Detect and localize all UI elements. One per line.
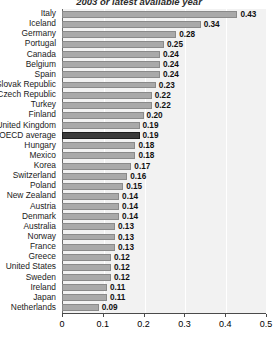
bar-value-label: 0.14 <box>122 192 138 201</box>
category-label: Mexico <box>29 151 56 160</box>
category-label: Greece <box>29 252 56 261</box>
bar-row: 0.43 <box>62 11 266 18</box>
bar-chart-figure: 2003 or latest available year ItalyIcela… <box>0 0 278 340</box>
category-label: Austria <box>30 202 56 211</box>
bar <box>62 234 115 241</box>
bar <box>62 244 115 251</box>
bar <box>62 284 107 291</box>
category-label: United States <box>6 262 56 271</box>
category-label: Japan <box>33 293 56 302</box>
x-axis-tick-label: 0.5 <box>246 319 278 329</box>
bar-value-label: 0.28 <box>179 30 195 39</box>
bar-value-label: 0.20 <box>147 111 163 120</box>
x-axis-tick <box>144 314 145 317</box>
category-label: France <box>30 242 56 251</box>
bar-series: 0.430.340.280.250.240.240.240.230.220.22… <box>62 9 266 313</box>
bar-value-label: 0.24 <box>163 70 179 79</box>
bar-row: 0.13 <box>62 234 266 241</box>
category-label: Sweden <box>26 273 56 282</box>
bar-value-label: 0.12 <box>114 263 130 272</box>
category-label: Korea <box>34 161 56 170</box>
x-axis-tick-label: 0 <box>42 319 82 329</box>
bar-row: 0.25 <box>62 41 266 48</box>
bar-value-label: 0.16 <box>130 172 146 181</box>
bar <box>62 112 144 119</box>
bar-value-label: 0.15 <box>126 182 142 191</box>
bar-value-label: 0.24 <box>163 60 179 69</box>
bar-value-label: 0.14 <box>122 212 138 221</box>
bar <box>62 163 131 170</box>
bar-value-label: 0.11 <box>110 283 125 292</box>
bar <box>62 132 140 139</box>
bar <box>62 173 127 180</box>
category-label: Hungary <box>24 141 56 150</box>
bar <box>62 92 152 99</box>
category-label: Czech Republic <box>0 90 56 99</box>
bar-value-label: 0.13 <box>118 233 134 242</box>
x-axis-tick-label: 0.2 <box>124 319 164 329</box>
bar <box>62 264 111 271</box>
bar <box>62 304 99 311</box>
category-label: Poland <box>30 181 56 190</box>
bar <box>62 183 123 190</box>
category-label: Switzerland <box>13 171 56 180</box>
bar <box>62 31 176 38</box>
category-label: Germany <box>22 29 56 38</box>
bar-value-label: 0.14 <box>122 202 138 211</box>
bar-value-label: 0.43 <box>240 10 256 19</box>
bar-row: 0.12 <box>62 264 266 271</box>
bar-row: 0.11 <box>62 284 266 291</box>
bar-row: 0.18 <box>62 152 266 159</box>
bar-row: 0.18 <box>62 142 266 149</box>
category-label: New Zealand <box>7 191 56 200</box>
bar-value-label: 0.24 <box>163 50 179 59</box>
x-axis-line <box>62 313 266 314</box>
bar-value-label: 0.19 <box>143 131 159 140</box>
bar-row: 0.15 <box>62 183 266 190</box>
bar-row: 0.14 <box>62 193 266 200</box>
bar-value-label: 0.11 <box>110 293 125 302</box>
bar-row: 0.13 <box>62 244 266 251</box>
category-label: United Kingdom <box>0 121 56 130</box>
bar <box>62 223 115 230</box>
bar <box>62 11 237 18</box>
x-axis-tick <box>225 314 226 317</box>
x-axis-tick <box>103 314 104 317</box>
bar-row: 0.09 <box>62 304 266 311</box>
bar <box>62 102 152 109</box>
x-axis-tick <box>266 314 267 317</box>
category-axis-labels: ItalyIcelandGermanyPortugalCanadaBelgium… <box>0 9 59 313</box>
gridline-vertical <box>267 9 268 313</box>
category-label: Canada <box>27 50 56 59</box>
bar-value-label: 0.12 <box>114 253 130 262</box>
bar-row: 0.17 <box>62 163 266 170</box>
bar-row: 0.22 <box>62 92 266 99</box>
category-label: Finland <box>29 110 56 119</box>
bar-row: 0.24 <box>62 61 266 68</box>
category-label: Belgium <box>26 60 56 69</box>
x-axis-tick-label: 0.1 <box>83 319 123 329</box>
bar-row: 0.23 <box>62 82 266 89</box>
bar-row: 0.28 <box>62 31 266 38</box>
bar-value-label: 0.17 <box>134 162 150 171</box>
bar-value-label: 0.23 <box>159 81 175 90</box>
bar-value-label: 0.13 <box>118 243 134 252</box>
category-label: Norway <box>28 232 56 241</box>
bar <box>62 51 160 58</box>
bar-row: 0.34 <box>62 21 266 28</box>
category-label: Australia <box>23 222 56 231</box>
bar-row: 0.19 <box>62 122 266 129</box>
bar <box>62 41 164 48</box>
bar <box>62 274 111 281</box>
bar-row: 0.24 <box>62 51 266 58</box>
category-label: Iceland <box>29 19 56 28</box>
bar-row: 0.12 <box>62 254 266 261</box>
category-label: OECD average <box>0 131 56 140</box>
bar-row: 0.13 <box>62 223 266 230</box>
bar <box>62 152 135 159</box>
bar <box>62 213 119 220</box>
bar <box>62 203 119 210</box>
bar-row: 0.19 <box>62 132 266 139</box>
bar-value-label: 0.25 <box>167 40 183 49</box>
bar-row: 0.20 <box>62 112 266 119</box>
